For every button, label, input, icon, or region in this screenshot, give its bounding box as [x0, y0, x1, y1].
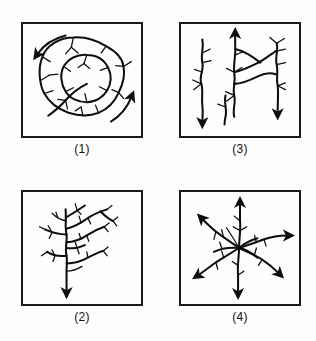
panel-trellis: (3) — [158, 0, 316, 170]
panel-label-1: (1) — [21, 142, 143, 156]
panel-label-4: (4) — [179, 310, 301, 324]
panel-border-3 — [179, 22, 301, 138]
trellis-drainage-diagram — [181, 24, 299, 136]
panel-radial: (4) — [158, 170, 316, 341]
panel-dendritic: (2) — [0, 170, 158, 341]
panel-border-1 — [21, 22, 143, 138]
panel-label-3: (3) — [179, 142, 301, 156]
drainage-patterns-figure: (1) — [0, 0, 316, 341]
panel-border-2 — [21, 190, 143, 306]
panel-annular: (1) — [0, 0, 158, 170]
radial-drainage-diagram — [181, 192, 299, 304]
panel-border-4 — [179, 190, 301, 306]
annular-drainage-diagram — [23, 24, 141, 136]
dendritic-drainage-diagram — [23, 192, 141, 304]
panel-label-2: (2) — [21, 310, 143, 324]
